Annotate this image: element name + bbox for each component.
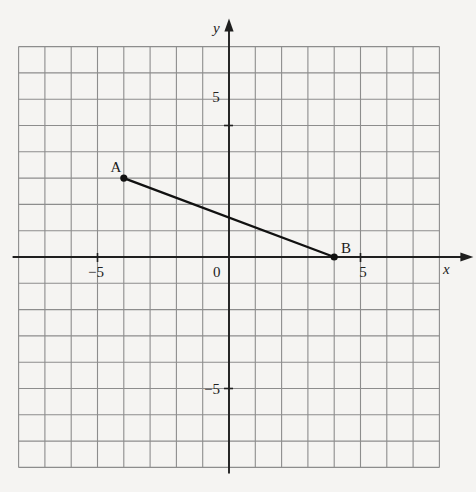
y-tick-label-neg5: −5 <box>204 381 220 397</box>
data-point-a <box>120 175 127 182</box>
coordinate-plane-svg: y x 0 −5 5 5 −5 A B <box>0 0 476 492</box>
x-tick-label-neg5: −5 <box>88 264 104 280</box>
y-axis-label: y <box>211 20 220 36</box>
origin-label: 0 <box>213 264 221 280</box>
data-point-b <box>331 253 338 260</box>
x-tick-label-5: 5 <box>359 264 367 280</box>
point-label-b: B <box>341 240 351 256</box>
x-axis-label: x <box>442 261 450 277</box>
y-tick-label-5: 5 <box>212 89 220 105</box>
point-label-a: A <box>111 159 122 175</box>
coordinate-plane-figure: y x 0 −5 5 5 −5 A B <box>0 0 476 492</box>
